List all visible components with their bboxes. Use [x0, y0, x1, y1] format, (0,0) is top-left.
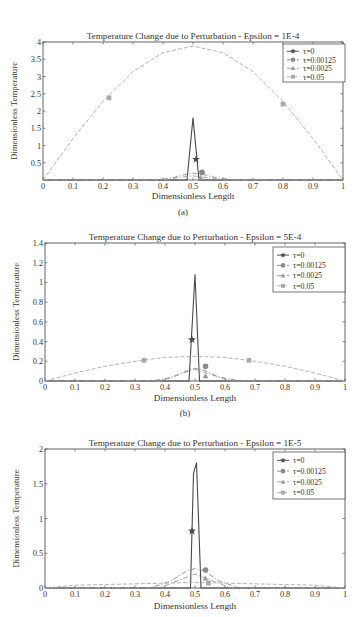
legend-entry: τ=0.05	[293, 282, 314, 291]
circle-marker-icon	[291, 57, 296, 62]
x-tick-label: 0.5	[188, 182, 198, 191]
legend-entry: τ=0	[293, 456, 305, 465]
y-tick-label: 1	[39, 515, 43, 524]
star-marker-icon	[188, 335, 196, 343]
x-tick-label: 0.6	[220, 383, 230, 392]
x-tick-label: 0.3	[130, 590, 140, 599]
x-tick-label: 0.9	[308, 182, 318, 191]
panel-caption: (a)	[178, 207, 188, 217]
x-tick-label: 0.3	[130, 383, 140, 392]
circle-marker-icon	[203, 567, 209, 573]
x-tick-label: 0.4	[160, 383, 170, 392]
y-tick-label: 2	[37, 107, 41, 116]
x-tick-label: 0.6	[218, 182, 228, 191]
y-tick-label: 0.6	[33, 318, 43, 327]
square-marker-icon	[206, 581, 211, 586]
y-axis-label: Dimensionless Temperature	[11, 469, 21, 567]
y-axis-label: Dimensionless Temperature	[11, 263, 21, 361]
x-tick-label: 0.9	[310, 383, 320, 392]
x-tick-label: 0.3	[128, 182, 138, 191]
star-marker-icon	[192, 155, 200, 163]
square-marker-icon	[107, 96, 112, 101]
x-tick-label: 0.1	[68, 182, 78, 191]
legend-entry: τ=0.0025	[293, 478, 322, 487]
y-tick-label: 0	[39, 377, 43, 386]
x-tick-label: 0.5	[190, 383, 200, 392]
triangle-marker-icon	[203, 575, 209, 580]
square-marker-icon	[281, 284, 285, 288]
legend-entry: τ=0.00125	[293, 467, 326, 476]
x-axis-label: Dimensionless Length	[154, 601, 237, 611]
y-tick-label: 0	[39, 584, 43, 593]
series-line	[43, 118, 343, 180]
circle-marker-icon	[199, 170, 205, 176]
chart-panel-c: Temperature Change due to Perturbation -…	[11, 438, 347, 611]
legend-entry: τ=0.05	[303, 73, 324, 82]
y-tick-label: 3.5	[31, 55, 41, 64]
chart-title: Temperature Change due to Perturbation -…	[89, 438, 302, 448]
circle-marker-icon	[281, 263, 286, 268]
y-tick-label: 1.4	[33, 239, 43, 248]
square-marker-icon	[291, 75, 295, 79]
square-marker-icon	[142, 358, 147, 363]
x-tick-label: 1	[341, 182, 345, 191]
x-tick-label: 0.2	[100, 590, 110, 599]
x-tick-label: 0.1	[70, 383, 80, 392]
y-tick-label: 2	[39, 445, 43, 454]
legend: τ=0τ=0.00125τ=0.0025τ=0.05	[283, 44, 345, 82]
x-axis-label: Dimensionless Length	[152, 191, 235, 201]
square-marker-icon	[281, 102, 286, 107]
panel-caption: (b)	[180, 408, 191, 418]
y-tick-label: 2.5	[31, 90, 41, 99]
chart-title: Temperature Change due to Perturbation -…	[89, 232, 302, 242]
y-tick-label: 3	[37, 73, 41, 82]
figure-canvas: Temperature Change due to Perturbation -…	[0, 0, 362, 617]
x-tick-label: 0.2	[100, 383, 110, 392]
square-marker-icon	[281, 491, 285, 495]
y-tick-label: 0.8	[33, 298, 43, 307]
x-tick-label: 0.7	[248, 182, 258, 191]
legend: τ=0τ=0.00125τ=0.0025τ=0.05	[273, 452, 345, 499]
y-tick-label: 1	[37, 142, 41, 151]
chart-panel-b: Temperature Change due to Perturbation -…	[11, 232, 347, 418]
legend: τ=0τ=0.00125τ=0.0025τ=0.05	[273, 247, 345, 292]
y-tick-label: 0.5	[31, 159, 41, 168]
square-marker-icon	[247, 358, 252, 363]
y-tick-label: 0.5	[33, 549, 43, 558]
y-axis-label: Dimensionless Temperature	[9, 62, 19, 160]
x-axis-label: Dimensionless Length	[154, 393, 237, 403]
x-tick-label: 0.8	[280, 590, 290, 599]
x-tick-label: 0.8	[280, 383, 290, 392]
chart-title: Temperature Change due to Perturbation -…	[87, 31, 300, 41]
x-tick-label: 0.4	[160, 590, 170, 599]
x-tick-label: 0.7	[250, 590, 260, 599]
x-tick-label: 1	[343, 383, 347, 392]
x-tick-label: 0	[43, 383, 47, 392]
x-tick-label: 1	[343, 590, 347, 599]
x-tick-label: 0.2	[98, 182, 108, 191]
x-tick-label: 0.7	[250, 383, 260, 392]
x-tick-label: 0	[41, 182, 45, 191]
x-tick-label: 0	[43, 590, 47, 599]
y-tick-label: 0.4	[33, 338, 43, 347]
x-tick-label: 0.8	[278, 182, 288, 191]
y-tick-label: 0.2	[33, 357, 43, 366]
y-tick-label: 4	[37, 38, 41, 47]
y-tick-label: 1.5	[33, 480, 43, 489]
x-tick-label: 0.1	[70, 590, 80, 599]
y-tick-label: 1	[39, 278, 43, 287]
circle-marker-icon	[203, 363, 209, 369]
legend-entry: τ=0.0025	[293, 271, 322, 280]
chart-panel-a: Temperature Change due to Perturbation -…	[9, 31, 345, 217]
legend-entry: τ=0.05	[293, 488, 314, 497]
x-tick-label: 0.9	[310, 590, 320, 599]
x-tick-label: 0.5	[190, 590, 200, 599]
x-tick-label: 0.6	[220, 590, 230, 599]
triangle-marker-icon	[203, 373, 209, 378]
legend-entry: τ=0.00125	[293, 261, 326, 270]
circle-marker-icon	[281, 469, 286, 474]
legend-entry: τ=0	[293, 251, 305, 260]
series-line	[45, 356, 345, 381]
y-tick-label: 1.5	[31, 124, 41, 133]
y-tick-label: 1.2	[33, 259, 43, 268]
